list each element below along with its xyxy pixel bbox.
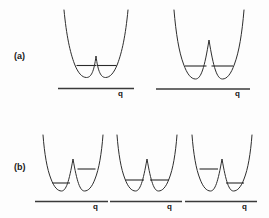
potential-plot-b3 [187, 132, 257, 210]
potential-curve-b2 [117, 135, 177, 191]
axis-label-a1-q: q [118, 90, 123, 98]
potential-curve-a1 [64, 10, 128, 78]
potential-curve-b1 [43, 135, 103, 191]
row-label-b: (b) [14, 163, 26, 172]
axis-label-b3-q: q [242, 203, 247, 211]
panel-b1: q [38, 132, 108, 210]
potential-curve-a2 [174, 10, 244, 79]
axis-label-a2-q: q [235, 90, 240, 98]
axis-label-b1-q: q [93, 203, 98, 211]
axis-label-b2-q: q [167, 203, 172, 211]
potential-plot-a2 [168, 8, 250, 96]
panel-a1: q [58, 8, 134, 96]
potential-plot-b2 [112, 132, 182, 210]
panel-b3: q [187, 132, 257, 210]
figure-canvas: (a) q q (b) [0, 0, 269, 218]
potential-plot-b1 [38, 132, 108, 210]
row-label-a: (a) [14, 52, 25, 61]
panel-b2: q [112, 132, 182, 210]
panel-a2: q [168, 8, 250, 96]
potential-plot-a1 [58, 8, 134, 96]
